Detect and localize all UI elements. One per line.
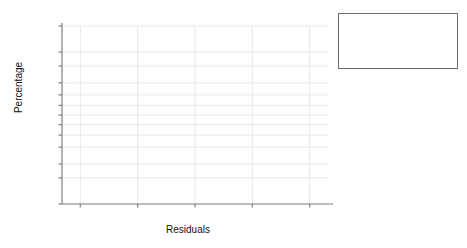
plot-canvas <box>0 0 340 248</box>
y-axis-title: Percentage <box>13 48 24 128</box>
x-axis-title: Residuals <box>126 224 250 235</box>
probability-plot-figure: Percentage Residuals <box>0 0 467 248</box>
statistics-box <box>338 13 458 69</box>
plot-area: Percentage Residuals <box>0 0 340 248</box>
